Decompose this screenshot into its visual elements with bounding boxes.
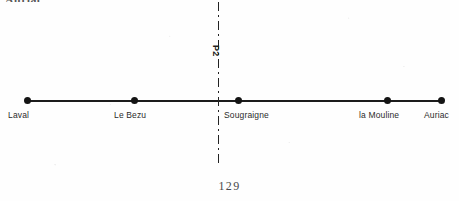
transect-node-label: Laval bbox=[8, 110, 29, 120]
transect-node-dot bbox=[24, 97, 31, 104]
transect-node-dot bbox=[384, 97, 391, 104]
transect-node-dot bbox=[235, 97, 242, 104]
scanned-figure-page: Auriac. P2 LavalLe BezuSougraignela Moul… bbox=[0, 0, 459, 201]
cut-off-running-head: Auriac. bbox=[5, 0, 46, 2]
transect-node-label: Le Bezu bbox=[114, 110, 146, 120]
profile-section-label: P2 bbox=[211, 45, 221, 57]
transect-node-label: la Mouline bbox=[359, 110, 399, 120]
transect-node-dot bbox=[438, 97, 445, 104]
page-number: 129 bbox=[0, 179, 459, 194]
transect-node-dot bbox=[131, 97, 138, 104]
transect-baseline bbox=[26, 100, 441, 102]
transect-node-label: Sougraigne bbox=[224, 110, 269, 120]
transect-node-label: Auriac bbox=[424, 110, 449, 120]
profile-section-dashdot-line bbox=[218, 2, 219, 164]
